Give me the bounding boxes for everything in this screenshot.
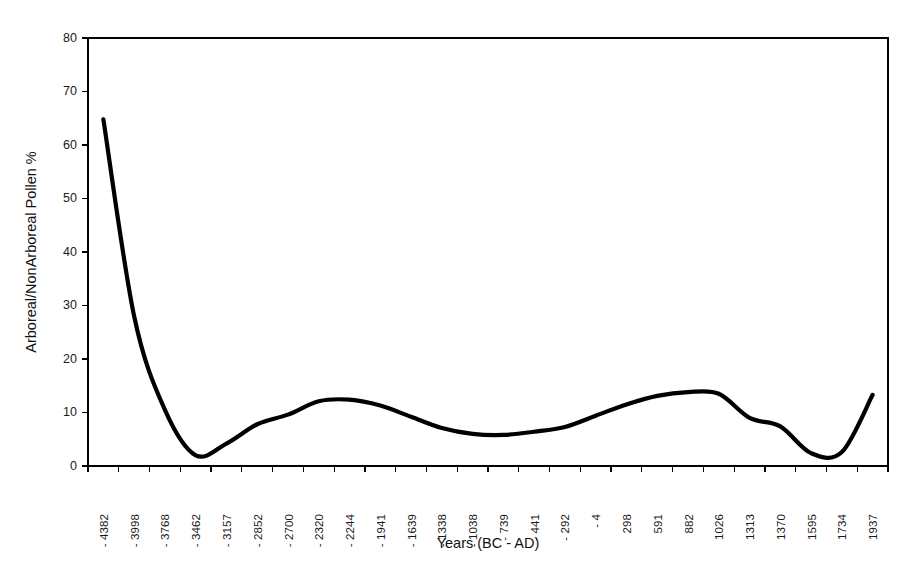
y-axis: 01020304050607080 xyxy=(63,31,88,473)
x-tick-label: - 1941 xyxy=(375,514,387,547)
x-tick-label: - 2244 xyxy=(344,514,356,548)
x-tick-label: - 2320 xyxy=(313,514,325,547)
y-tick-label: 30 xyxy=(63,298,77,312)
x-tick-label: - 3462 xyxy=(190,514,202,547)
chart-canvas: 01020304050607080 - 4382- 3998- 3768- 34… xyxy=(0,0,921,568)
pollen-curve xyxy=(103,119,872,458)
x-tick-label: 1370 xyxy=(775,514,787,540)
x-tick-label: 1937 xyxy=(867,514,879,540)
y-tick-label: 10 xyxy=(63,405,77,419)
y-tick-label: 0 xyxy=(70,459,77,473)
x-tick-label: - 3998 xyxy=(129,514,141,547)
x-tick-label: 591 xyxy=(652,514,664,534)
x-tick-label: - 4382 xyxy=(98,514,110,547)
x-tick-label: - 3157 xyxy=(221,514,233,547)
x-tick-label: - 4 xyxy=(590,514,602,528)
pollen-percentage-chart: 01020304050607080 - 4382- 3998- 3768- 34… xyxy=(0,0,921,568)
x-tick-label: 1734 xyxy=(836,513,848,539)
x-tick-label: - 3768 xyxy=(159,514,171,547)
x-tick-label: - 2700 xyxy=(283,514,295,547)
x-tick-label: 1026 xyxy=(713,514,725,540)
y-tick-label: 50 xyxy=(63,191,77,205)
y-tick-label: 70 xyxy=(63,84,77,98)
x-axis-title: Years (BC - AD) xyxy=(437,535,540,551)
x-tick-label: 1595 xyxy=(806,514,818,540)
x-tick-label: 882 xyxy=(683,514,695,534)
y-tick-label: 20 xyxy=(63,352,77,366)
y-tick-label: 60 xyxy=(63,138,77,152)
y-tick-label: 80 xyxy=(63,31,77,45)
x-tick-label: - 2852 xyxy=(252,514,264,547)
x-tick-label: 1313 xyxy=(744,514,756,540)
y-axis-title: Arboreal/NonArboreal Pollen % xyxy=(23,151,39,353)
data-series-group xyxy=(103,119,872,458)
y-tick-label: 40 xyxy=(63,245,77,259)
plot-frame xyxy=(88,38,888,466)
x-tick-label: - 292 xyxy=(559,514,571,541)
x-tick-label: - 1639 xyxy=(406,514,418,547)
x-tick-label: 298 xyxy=(621,514,633,534)
